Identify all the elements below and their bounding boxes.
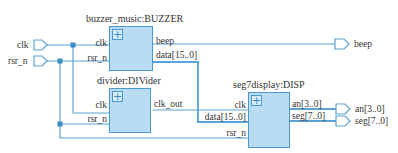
output-label-beep: beep: [354, 39, 372, 49]
block-title-disp: seg7display:DISP: [233, 79, 305, 90]
junction-rsr: [58, 59, 63, 64]
port-buzzer-beep: beep: [156, 36, 174, 46]
input-label-rsr-n: rsr_n: [8, 56, 28, 66]
expand-icon[interactable]: +: [112, 29, 123, 40]
expand-icon[interactable]: +: [251, 95, 262, 106]
input-pin-rsr-icon: [34, 56, 47, 66]
input-pin-clk-icon: [34, 40, 47, 50]
port-disp-clk: clk: [200, 100, 246, 110]
junction-rsr-2: [58, 122, 63, 127]
expand-icon[interactable]: +: [112, 91, 123, 102]
port-disp-an: an[3..0]: [292, 99, 322, 109]
port-buzzer-clk: clk: [80, 38, 107, 48]
output-label-seg: seg[7..0]: [355, 116, 388, 126]
output-pin-an-icon: [336, 104, 350, 114]
port-buzzer-rsr-n: rsr_n: [80, 53, 107, 63]
port-divider-rsr-n: rsr_n: [80, 114, 107, 124]
port-disp-data: data[15..0]: [200, 112, 246, 122]
block-title-buzzer: buzzer_music:BUZZER: [86, 13, 183, 24]
input-label-clk: clk: [17, 40, 29, 50]
port-buzzer-data: data[15..0]: [156, 50, 197, 60]
block-divider[interactable]: +: [109, 88, 151, 133]
port-disp-rsr-n: rsr_n: [200, 128, 246, 138]
block-buzzer[interactable]: +: [109, 26, 153, 71]
wires-layer: [0, 0, 398, 153]
block-disp[interactable]: +: [248, 92, 290, 148]
junction-clk: [71, 43, 76, 48]
block-title-divider: divider:DIVider: [97, 75, 161, 86]
port-divider-clk-out: clk_out: [154, 99, 183, 109]
port-divider-clk: clk: [80, 100, 107, 110]
port-disp-seg: seg[7..0]: [292, 111, 325, 121]
output-pin-seg-icon: [336, 116, 350, 126]
output-label-an: an[3..0]: [355, 104, 385, 114]
output-pin-beep-icon: [335, 39, 349, 49]
